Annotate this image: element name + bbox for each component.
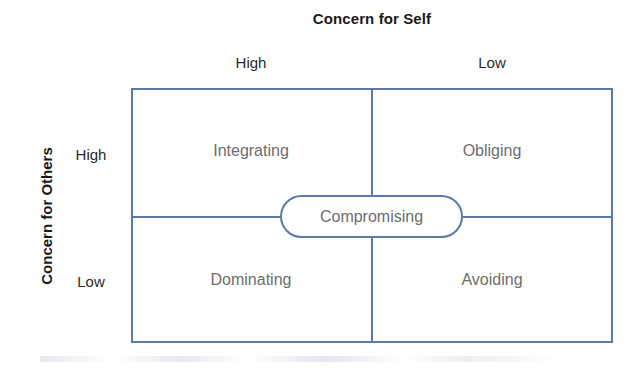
- quadrant-label-obliging: Obliging: [371, 142, 613, 160]
- scan-artifact: [40, 356, 560, 362]
- x-axis-title: Concern for Self: [131, 10, 613, 27]
- center-pill-label: Compromising: [320, 209, 423, 225]
- row-header-high: High: [56, 146, 126, 163]
- quadrant-label-integrating: Integrating: [131, 142, 371, 160]
- y-axis-title: Concern for Others: [36, 88, 58, 344]
- column-header-low: Low: [371, 54, 613, 71]
- center-pill-compromising: Compromising: [280, 195, 463, 238]
- column-header-high: High: [131, 54, 371, 71]
- conflict-style-matrix-figure: Concern for Self High Low Concern for Ot…: [0, 0, 635, 368]
- quadrant-label-dominating: Dominating: [131, 271, 371, 289]
- row-header-low: Low: [56, 273, 126, 290]
- quadrant-label-avoiding: Avoiding: [371, 271, 613, 289]
